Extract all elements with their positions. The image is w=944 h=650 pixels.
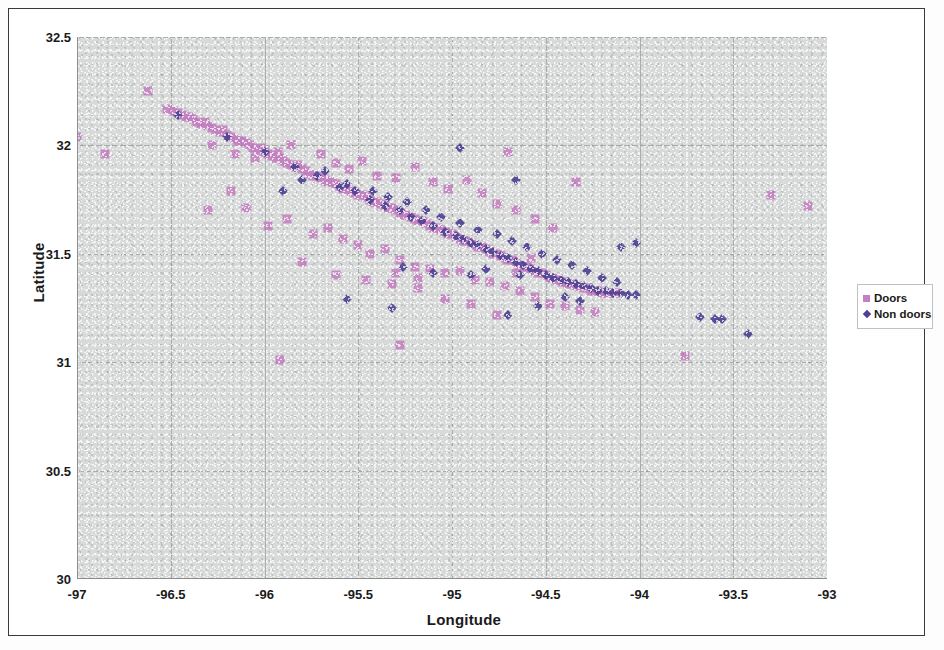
data-point-doors xyxy=(298,258,307,267)
data-point-non-doors xyxy=(421,205,431,215)
data-point-doors xyxy=(549,223,558,232)
data-point-doors xyxy=(455,267,464,276)
x-tick-label: -96.5 xyxy=(136,587,206,602)
data-point-doors xyxy=(590,308,599,317)
diamond-marker-icon xyxy=(862,310,870,318)
data-point-non-doors xyxy=(507,236,517,246)
y-tick-label: 32.5 xyxy=(15,30,71,45)
data-point-doors xyxy=(388,280,397,289)
data-point-doors xyxy=(463,176,472,185)
data-point-doors xyxy=(344,165,353,174)
data-point-doors xyxy=(444,184,453,193)
data-point-non-doors xyxy=(402,197,412,207)
data-point-doors xyxy=(264,221,273,230)
x-tick-label: -96 xyxy=(230,587,300,602)
data-point-non-doors xyxy=(582,266,592,276)
vertical-gridline xyxy=(640,37,641,579)
data-point-non-doors xyxy=(597,273,607,283)
legend-item-label: Non doors xyxy=(874,306,932,322)
data-point-non-doors xyxy=(616,242,626,252)
x-tick-label: -97 xyxy=(42,587,112,602)
data-point-doors xyxy=(410,262,419,271)
vertical-gridline xyxy=(358,37,359,579)
data-point-non-doors xyxy=(473,225,483,235)
data-point-non-doors xyxy=(533,301,543,311)
x-tick-label: -95.5 xyxy=(323,587,393,602)
data-point-doors xyxy=(365,249,374,258)
vertical-gridline xyxy=(452,37,453,579)
data-point-doors xyxy=(251,154,260,163)
data-point-doors xyxy=(316,150,325,159)
y-tick-label: 30.5 xyxy=(15,463,71,478)
data-point-doors xyxy=(414,273,423,282)
x-tick-label: -94.5 xyxy=(511,587,581,602)
x-tick-label: -95 xyxy=(417,587,487,602)
data-point-non-doors xyxy=(455,143,465,153)
data-point-doors xyxy=(571,178,580,187)
vertical-gridline xyxy=(171,37,172,579)
x-axis-title: Longitude xyxy=(339,611,589,628)
data-point-doors xyxy=(515,286,524,295)
data-point-non-doors xyxy=(342,294,352,304)
x-tick-label: -93 xyxy=(792,587,862,602)
y-tick-label: 30 xyxy=(15,572,71,587)
data-point-doors xyxy=(331,158,340,167)
data-point-doors xyxy=(478,189,487,198)
horizontal-gridline xyxy=(77,145,827,146)
data-point-non-doors xyxy=(481,264,491,274)
x-axis-tick-labels: -97-96.5-96-95.5-95-94.5-94-93.5-93 xyxy=(77,583,827,607)
data-point-non-doors xyxy=(567,260,577,270)
data-point-non-doors xyxy=(455,218,465,228)
data-point-doors xyxy=(395,340,404,349)
data-point-doors xyxy=(339,234,348,243)
data-point-non-doors xyxy=(717,314,727,324)
data-point-doors xyxy=(511,206,520,215)
data-point-doors xyxy=(275,356,284,365)
data-point-doors xyxy=(361,275,370,284)
x-tick-label: -93.5 xyxy=(698,587,768,602)
data-point-doors xyxy=(440,295,449,304)
y-axis-line xyxy=(77,37,78,579)
data-point-doors xyxy=(226,186,235,195)
data-point-doors xyxy=(283,215,292,224)
data-point-non-doors xyxy=(522,242,532,252)
data-point-doors xyxy=(309,230,318,239)
data-point-non-doors xyxy=(631,238,641,248)
data-point-doors xyxy=(286,141,295,150)
data-point-non-doors xyxy=(631,290,641,300)
data-point-doors xyxy=(391,269,400,278)
data-point-doors xyxy=(526,254,535,263)
data-point-doors xyxy=(241,204,250,213)
x-axis-line xyxy=(77,578,827,579)
data-point-doors xyxy=(429,178,438,187)
vertical-gridline xyxy=(733,37,734,579)
vertical-gridline xyxy=(265,37,266,579)
data-point-doors xyxy=(485,277,494,286)
data-point-doors xyxy=(101,150,110,159)
data-point-doors xyxy=(466,299,475,308)
y-axis-tick-labels: 3030.53131.53232.5 xyxy=(9,37,71,579)
data-point-doors xyxy=(504,147,513,156)
data-point-non-doors xyxy=(612,277,622,287)
data-point-doors xyxy=(804,202,813,211)
data-point-doors xyxy=(373,171,382,180)
chart-legend: DoorsNon doors xyxy=(857,284,933,329)
data-point-doors xyxy=(410,163,419,172)
data-point-doors xyxy=(208,141,217,150)
data-point-doors xyxy=(380,245,389,254)
figure-frame: Latitude Longitude 3030.53131.53232.5 -9… xyxy=(8,8,925,636)
data-point-non-doors xyxy=(503,310,513,320)
data-point-non-doors xyxy=(743,329,753,339)
data-point-non-doors xyxy=(511,175,521,185)
data-point-non-doors xyxy=(278,186,288,196)
data-point-non-doors xyxy=(695,312,705,322)
data-point-doors xyxy=(230,150,239,159)
data-point-doors xyxy=(530,215,539,224)
data-point-doors xyxy=(545,299,554,308)
legend-item-non-doors: Non doors xyxy=(863,306,928,322)
data-point-doors xyxy=(273,147,282,156)
x-tick-label: -94 xyxy=(605,587,675,602)
plot-area xyxy=(77,37,827,579)
data-point-doors xyxy=(414,284,423,293)
data-point-doors xyxy=(354,241,363,250)
